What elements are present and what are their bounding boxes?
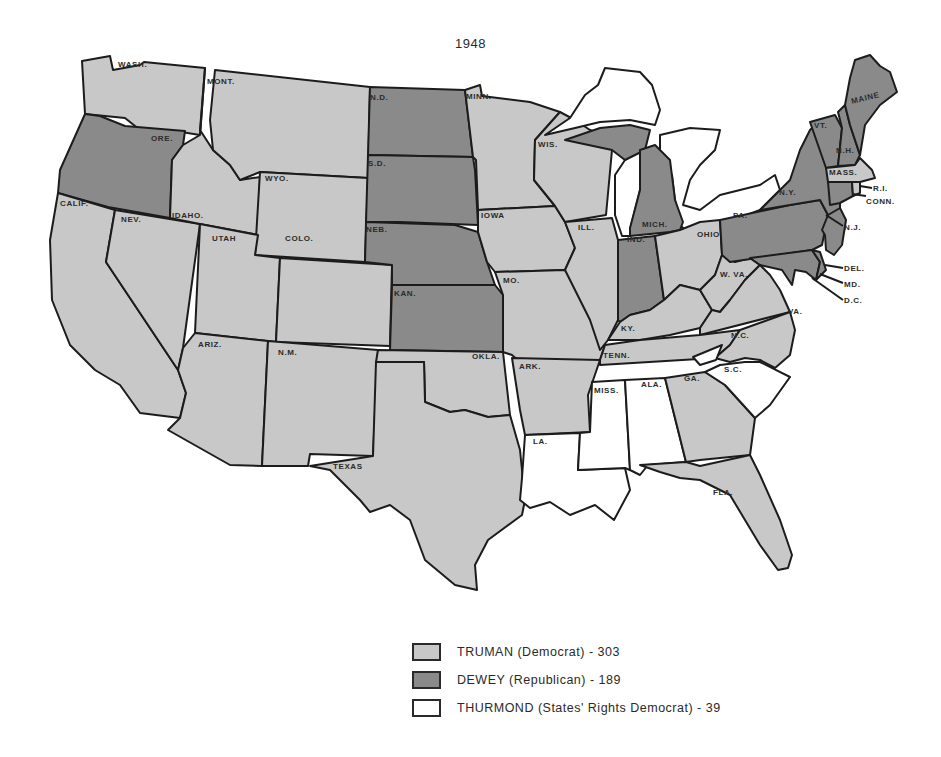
- label-idaho: IDAHO.: [172, 211, 204, 220]
- label-texas: TEXAS: [333, 462, 363, 471]
- label-pa: PA.: [733, 211, 748, 220]
- label-del: DEL.: [844, 264, 865, 273]
- label-nd: N.D.: [370, 93, 388, 102]
- state-nm: [262, 341, 378, 466]
- state-fla: [640, 455, 792, 570]
- label-kan: KAN.: [394, 289, 416, 298]
- label-nc: N.C.: [731, 331, 749, 340]
- legend-label-dewey: DEWEY (Republican) - 189: [457, 673, 621, 687]
- label-ky: KY.: [621, 324, 635, 333]
- legend-item-truman: TRUMAN (Democrat) - 303: [412, 638, 721, 666]
- legend-swatch-thurmond: [412, 699, 441, 717]
- label-wash: WASH.: [118, 60, 147, 69]
- label-va: VA.: [788, 307, 803, 316]
- label-okla: OKLA.: [472, 352, 500, 361]
- leader-ri: [860, 186, 872, 188]
- label-mont: MONT.: [207, 77, 235, 86]
- label-minn: MINN.: [466, 92, 492, 101]
- label-ri: R.I.: [873, 184, 888, 193]
- legend-label-truman: TRUMAN (Democrat) - 303: [457, 645, 620, 659]
- label-mass: MASS.: [829, 168, 857, 177]
- legend-swatch-truman: [412, 643, 441, 661]
- label-iowa: IOWA: [481, 211, 505, 220]
- label-nh: N.H.: [836, 146, 854, 155]
- label-md: MD.: [844, 280, 860, 289]
- state-wyo: [255, 172, 368, 262]
- label-wis: WIS.: [538, 140, 558, 149]
- label-ore: ORE.: [151, 134, 173, 143]
- label-calif: CALIF.: [60, 199, 89, 208]
- label-ga: GA.: [684, 374, 700, 383]
- map-legend: TRUMAN (Democrat) - 303 DEWEY (Republica…: [412, 638, 721, 722]
- state-conn: [828, 182, 853, 205]
- label-wyo: WYO.: [265, 174, 289, 183]
- label-nev: NEV.: [121, 215, 141, 224]
- legend-swatch-dewey: [412, 671, 441, 689]
- legend-item-thurmond: THURMOND (States' Rights Democrat) - 39: [412, 694, 721, 722]
- label-ind: IND.: [627, 235, 645, 244]
- label-dc: D.C.: [844, 296, 862, 305]
- label-colo: COLO.: [285, 234, 313, 243]
- state-colo: [276, 258, 392, 346]
- state-mont: [210, 70, 370, 180]
- label-ala: ALA.: [641, 380, 662, 389]
- label-ariz: ARIZ.: [198, 340, 222, 349]
- label-nj: N.J.: [844, 223, 861, 232]
- legend-label-thurmond: THURMOND (States' Rights Democrat) - 39: [457, 701, 721, 715]
- label-ny: N.Y.: [779, 188, 796, 197]
- label-ill: ILL.: [578, 223, 595, 232]
- lake-superior: [545, 68, 660, 135]
- label-sd: S.D.: [368, 159, 386, 168]
- label-mo: MO.: [503, 276, 520, 285]
- leader-md: [820, 274, 843, 283]
- label-tenn: TENN.: [603, 351, 630, 360]
- label-la: LA.: [533, 437, 548, 446]
- label-neb: NEB.: [366, 225, 388, 234]
- label-conn: CONN.: [866, 197, 895, 206]
- label-sc: S.C.: [724, 365, 742, 374]
- label-vt: VT.: [814, 121, 827, 130]
- leader-del: [825, 265, 843, 268]
- label-nm: N.M.: [278, 348, 297, 357]
- label-fla: FLA.: [713, 488, 733, 497]
- label-ark: ARK.: [519, 362, 541, 371]
- legend-item-dewey: DEWEY (Republican) - 189: [412, 666, 721, 694]
- label-mich: MICH.: [642, 220, 668, 229]
- label-miss: MISS.: [594, 386, 619, 395]
- label-ohio: OHIO: [697, 230, 720, 239]
- label-wva: W. VA.: [720, 270, 748, 279]
- label-utah: UTAH: [212, 234, 236, 243]
